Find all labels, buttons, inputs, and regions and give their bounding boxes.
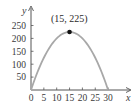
x-tick-label: 30 — [103, 93, 113, 103]
parabola-chart: y 50100150200250 x 051015202530 (15, 225… — [0, 0, 139, 106]
x-tick-label: 0 — [29, 93, 34, 103]
x-tick-label: 10 — [52, 93, 62, 103]
x-axis-label: x — [125, 92, 131, 103]
y-tick-label: 200 — [12, 34, 27, 44]
y-axis-label: y — [21, 5, 27, 16]
x-tick-label: 25 — [91, 93, 101, 103]
vertex-point-marker — [67, 30, 72, 35]
y-tick-label: 150 — [12, 47, 27, 57]
x-tick-label: 5 — [41, 93, 46, 103]
y-tick-label: 100 — [12, 60, 27, 70]
vertex-annotation: (15, 225) — [51, 13, 88, 25]
x-tick-label: 20 — [78, 93, 88, 103]
y-tick-label: 50 — [17, 72, 27, 82]
parabola-curve — [31, 32, 108, 90]
x-axis: x 051015202530 — [29, 88, 131, 104]
y-axis: y 50100150200250 — [12, 5, 34, 90]
x-tick-label: 15 — [65, 93, 75, 103]
y-ticks: 50100150200250 — [12, 21, 34, 83]
y-tick-label: 250 — [12, 21, 27, 31]
